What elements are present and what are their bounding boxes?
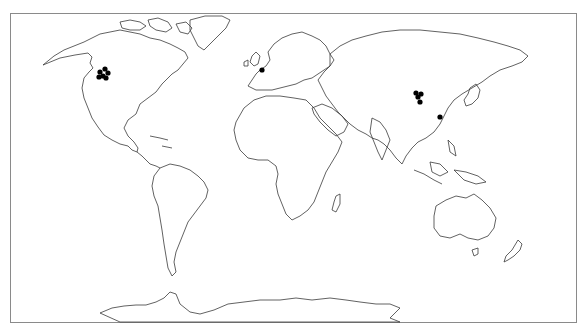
china-cluster — [413, 90, 423, 104]
greenland-outline — [190, 16, 230, 50]
location-dot — [105, 70, 110, 75]
location-dot — [259, 67, 264, 72]
india-outline — [370, 118, 390, 160]
africa-outline — [234, 96, 342, 220]
asia-outline — [318, 30, 528, 164]
southeast-asia-islands-outline — [414, 140, 486, 184]
british-isles-outline — [244, 52, 260, 66]
location-dot — [437, 114, 442, 119]
location-dot — [103, 75, 108, 80]
north-america-cluster — [96, 66, 110, 80]
madagascar-outline — [332, 194, 340, 212]
europe-outline — [248, 32, 334, 90]
arabia-outline — [312, 104, 348, 136]
australia-outline — [434, 194, 496, 240]
antarctica-outline — [100, 292, 400, 322]
tasmania-outline — [472, 248, 478, 256]
south-america-outline — [152, 164, 208, 276]
world-map — [0, 0, 583, 329]
central-america-outline — [137, 136, 172, 168]
japan-outline — [464, 84, 480, 106]
location-dot — [415, 94, 420, 99]
location-dot — [417, 99, 422, 104]
arctic-islands-outline — [120, 18, 192, 34]
east-china-marker — [437, 114, 442, 119]
location-dot — [96, 74, 101, 79]
north-america-outline — [43, 30, 188, 152]
location-markers — [96, 66, 442, 119]
new-zealand-outline — [504, 240, 522, 262]
europe-marker — [259, 67, 264, 72]
coastlines — [43, 16, 528, 322]
